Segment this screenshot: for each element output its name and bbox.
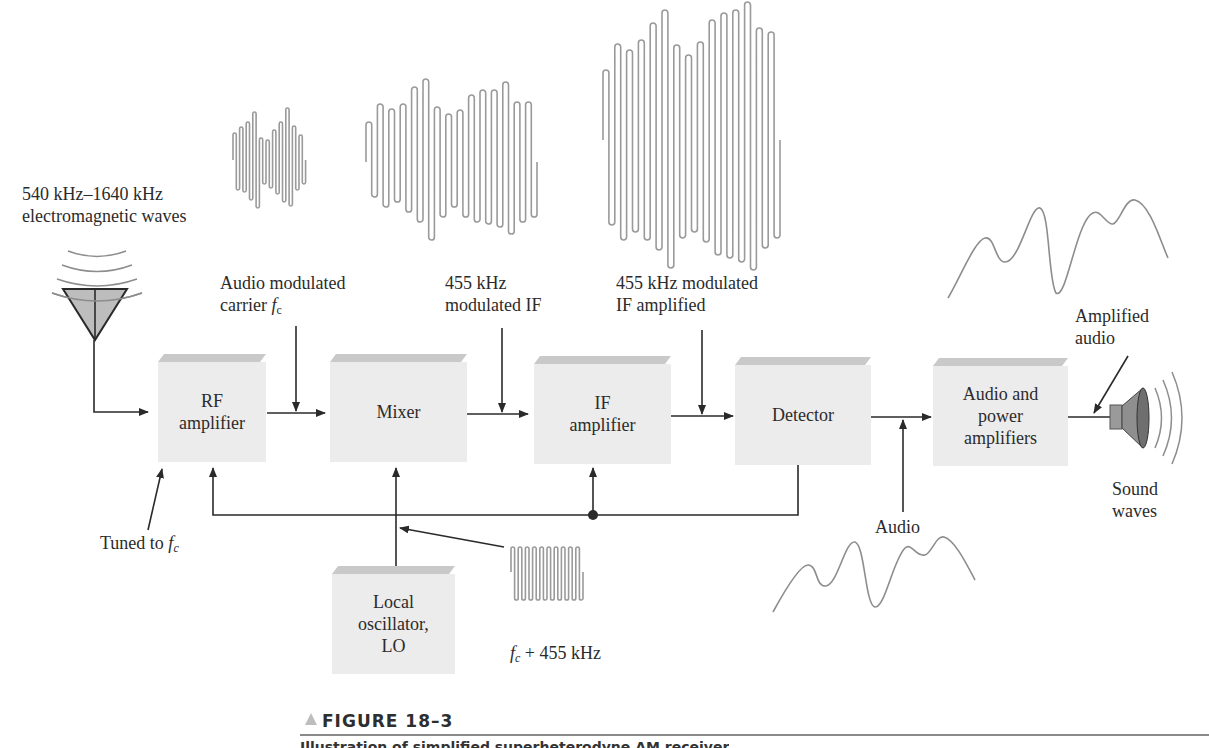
if-amplified-label: 455 kHz modulated IF amplified xyxy=(616,272,758,316)
input-label-line2: electromagnetic waves xyxy=(22,205,186,227)
figure-title: FIGURE 18–3 xyxy=(322,711,453,731)
waveform-lo xyxy=(511,547,583,600)
block-lo-line2: oscillator, xyxy=(332,613,455,635)
audio-modulated-carrier-label: Audio modulated carrier fc xyxy=(220,272,345,321)
sound-waves-icon xyxy=(1155,372,1182,464)
sound-waves-label: Sound waves xyxy=(1112,478,1158,522)
block-lo-line1: Local xyxy=(332,591,455,613)
modulated-if-line1: 455 kHz xyxy=(445,272,542,294)
antenna-icon xyxy=(52,289,142,340)
sound-waves-line1: Sound xyxy=(1112,478,1158,500)
tuned-to-prefix: Tuned to xyxy=(100,533,168,553)
block-lo-text: Local oscillator, LO xyxy=(332,591,455,657)
block-detector-text: Detector xyxy=(735,404,871,426)
waveform-if-amplified xyxy=(603,2,780,270)
lo-frequency-label: fc + 455 kHz xyxy=(510,642,601,669)
block-if-line1: IF xyxy=(534,392,671,414)
carrier-label-line1: Audio modulated xyxy=(220,272,345,294)
block-mixer-text: Mixer xyxy=(330,401,467,423)
figure-caption: Illustration of simplified superheterody… xyxy=(300,740,729,748)
tuned-to-subscript: c xyxy=(173,541,178,555)
carrier-subscript: c xyxy=(276,303,281,317)
caption-divider xyxy=(300,734,1209,736)
modulated-if-line2: modulated IF xyxy=(445,294,542,316)
waveform-amplified-audio xyxy=(948,200,1168,298)
caption-triangle-icon xyxy=(305,713,317,725)
receiver-diagram: 540 kHz–1640 kHz electromagnetic waves A… xyxy=(0,0,1209,748)
block-audio-line1: Audio and xyxy=(933,383,1068,405)
speaker-icon xyxy=(1110,388,1149,448)
block-audio-power-amplifiers: Audio and power amplifiers xyxy=(933,366,1068,466)
block-mixer-line1: Mixer xyxy=(330,401,467,423)
block-if-line2: amplifier xyxy=(534,414,671,436)
waveform-audio xyxy=(773,537,975,612)
block-mixer: Mixer xyxy=(330,362,467,462)
junction-dot xyxy=(588,510,598,520)
modulated-if-label: 455 kHz modulated IF xyxy=(445,272,542,316)
block-audio-line2: power xyxy=(933,405,1068,427)
block-lo-line3: LO xyxy=(332,635,455,657)
if-amplified-line2: IF amplified xyxy=(616,294,758,316)
block-rf-text: RF amplifier xyxy=(158,390,266,434)
block-rf-line2: amplifier xyxy=(158,412,266,434)
carrier-prefix: carrier xyxy=(220,295,271,315)
if-amplified-line1: 455 kHz modulated xyxy=(616,272,758,294)
block-local-oscillator: Local oscillator, LO xyxy=(332,574,455,674)
block-if-amplifier: IF amplifier xyxy=(534,364,671,464)
audio-label: Audio xyxy=(875,516,920,538)
input-frequency-label: 540 kHz–1640 kHz electromagnetic waves xyxy=(22,183,186,227)
amplified-audio-label: Amplified audio xyxy=(1075,305,1149,349)
block-if-text: IF amplifier xyxy=(534,392,671,436)
block-rf-amplifier: RF amplifier xyxy=(158,362,266,462)
waveform-am-carrier xyxy=(233,108,306,208)
lo-freq-suffix: + 455 kHz xyxy=(520,643,601,663)
tuned-to-label: Tuned to fc xyxy=(100,532,179,559)
block-detector: Detector xyxy=(735,365,871,465)
input-label-line1: 540 kHz–1640 kHz xyxy=(22,183,186,205)
block-rf-line1: RF xyxy=(158,390,266,412)
block-detector-line1: Detector xyxy=(735,404,871,426)
amplified-audio-line1: Amplified xyxy=(1075,305,1149,327)
block-audio-line3: amplifiers xyxy=(933,427,1068,449)
block-audio-text: Audio and power amplifiers xyxy=(933,383,1068,449)
carrier-label-line2: carrier fc xyxy=(220,294,345,321)
amplified-audio-line2: audio xyxy=(1075,327,1149,349)
waveform-modulated-if xyxy=(366,79,537,240)
sound-waves-line2: waves xyxy=(1112,500,1158,522)
